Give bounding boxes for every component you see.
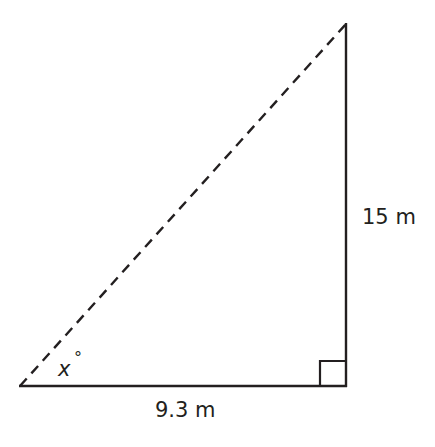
base-label: 9.3 m — [155, 398, 216, 422]
hypotenuse-dashed-line — [20, 24, 346, 386]
height-label: 15 m — [362, 205, 416, 229]
angle-label: x — [57, 357, 71, 381]
right-triangle-diagram: x ° 15 m 9.3 m — [0, 0, 435, 447]
degree-symbol: ° — [74, 348, 82, 367]
angle-variable: x — [57, 357, 71, 381]
right-angle-marker — [320, 361, 346, 386]
